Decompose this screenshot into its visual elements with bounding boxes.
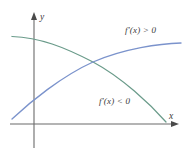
increasing-curve — [12, 43, 181, 119]
x-axis-label: x — [168, 111, 174, 121]
derivative-positive-label: f'(x) > 0 — [125, 25, 157, 35]
x-axis-arrowhead — [171, 121, 179, 127]
decreasing-curve — [12, 37, 166, 123]
derivative-sign-figure: y x f'(x) > 0 f'(x) < 0 — [0, 0, 189, 156]
derivative-negative-label: f'(x) < 0 — [99, 96, 131, 106]
y-axis-label: y — [39, 12, 45, 22]
figure-canvas: y x f'(x) > 0 f'(x) < 0 — [0, 0, 189, 156]
y-axis-arrowhead — [31, 12, 37, 20]
